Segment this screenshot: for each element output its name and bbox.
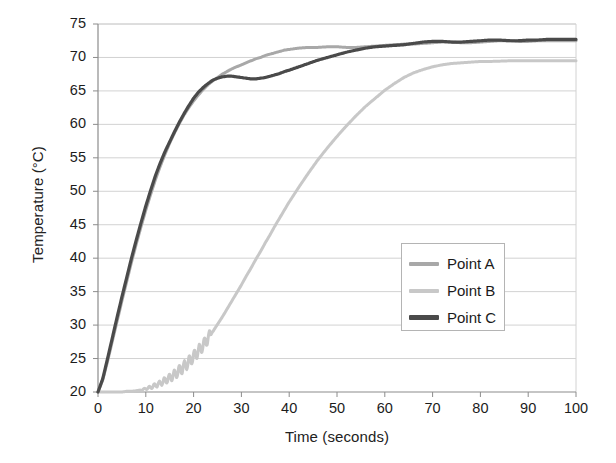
legend-item-point-a[interactable]: Point A (402, 249, 506, 278)
legend-swatch-line-icon (409, 289, 439, 293)
x-tick-label: 70 (410, 400, 456, 416)
gridlines (98, 24, 576, 392)
x-tick-label: 20 (171, 400, 217, 416)
y-tick-label: 20 (46, 383, 86, 399)
legend-item-point-c[interactable]: Point C (402, 303, 506, 332)
y-tick-label: 35 (46, 283, 86, 299)
y-tick-label: 40 (46, 249, 86, 265)
legend-item-point-b[interactable]: Point B (402, 276, 506, 305)
y-tick-label: 70 (46, 48, 86, 64)
temperature-time-line-chart: Temperature (°C) Time (seconds) 75706560… (0, 0, 616, 463)
legend-item-label: Point B (447, 282, 495, 299)
y-tick-label: 50 (46, 182, 86, 198)
legend-item-label: Point A (447, 255, 495, 272)
y-tick-label: 65 (46, 82, 86, 98)
y-tick-label: 30 (46, 316, 86, 332)
axis-ticks (93, 24, 576, 397)
x-tick-label: 30 (218, 400, 264, 416)
series-line-point-a (98, 41, 576, 392)
x-tick-label: 100 (553, 400, 599, 416)
y-axis-title: Temperature (°C) (29, 105, 46, 305)
x-tick-label: 80 (457, 400, 503, 416)
x-tick-label: 50 (314, 400, 360, 416)
legend-item-label: Point C (447, 309, 496, 326)
y-tick-label: 75 (46, 15, 86, 31)
x-tick-label: 60 (362, 400, 408, 416)
plot-canvas (0, 0, 616, 463)
x-tick-label: 90 (505, 400, 551, 416)
axis-lines (98, 24, 576, 392)
data-series (98, 39, 576, 392)
y-tick-label: 55 (46, 149, 86, 165)
legend: Point APoint BPoint C (401, 243, 505, 331)
x-axis-title: Time (seconds) (98, 428, 576, 445)
x-tick-label: 40 (266, 400, 312, 416)
legend-swatch-line-icon (409, 262, 439, 266)
y-tick-label: 60 (46, 115, 86, 131)
series-line-point-c (98, 39, 576, 392)
series-line-point-b (98, 61, 576, 392)
y-tick-label: 45 (46, 216, 86, 232)
y-tick-label: 25 (46, 350, 86, 366)
x-tick-label: 0 (75, 400, 121, 416)
x-tick-label: 10 (123, 400, 169, 416)
legend-swatch-line-icon (409, 315, 439, 320)
